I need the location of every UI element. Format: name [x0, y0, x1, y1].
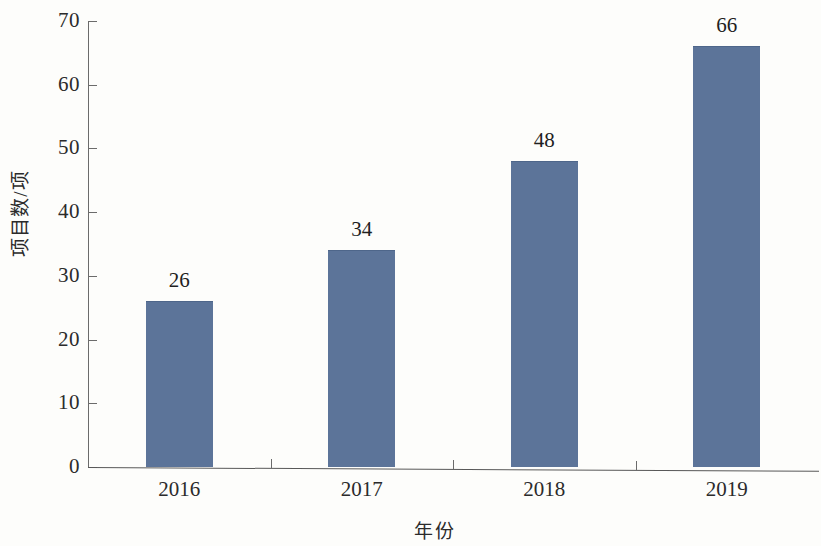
- bar-value-label: 48: [484, 130, 604, 151]
- x-axis-tick-label: 2016: [119, 478, 239, 501]
- bar: [511, 161, 578, 467]
- bar-chart: 010203040506070 2016201720182019 2634486…: [0, 0, 821, 546]
- x-axis-tick: [271, 459, 272, 468]
- plot-area: 010203040506070 2016201720182019 2634486…: [0, 0, 821, 546]
- x-axis-tick-label: 2019: [667, 478, 787, 501]
- bar-value-label: 26: [119, 270, 239, 291]
- y-axis-tick: [89, 340, 97, 341]
- bar-value-label: 66: [667, 15, 787, 36]
- y-axis-tick: [89, 21, 97, 22]
- y-axis-tick-label: 10: [28, 392, 80, 413]
- bar: [146, 301, 213, 467]
- bar: [693, 46, 760, 467]
- y-axis-tick: [89, 148, 97, 149]
- x-axis-tick: [636, 461, 637, 470]
- y-axis-tick-label: 30: [28, 265, 80, 286]
- y-axis-line: [88, 21, 89, 468]
- x-axis-tick: [453, 460, 454, 469]
- y-axis-tick: [89, 85, 97, 86]
- y-axis-tick-label: 60: [28, 74, 80, 95]
- x-axis-title: 年份: [375, 516, 495, 543]
- y-axis-tick-label: 20: [28, 329, 80, 350]
- y-axis-tick-label: 0: [28, 456, 80, 477]
- y-axis-tick: [89, 276, 97, 277]
- y-axis-tick-label: 50: [28, 137, 80, 158]
- y-axis-tick: [89, 212, 97, 213]
- y-axis-tick-label: 40: [28, 201, 80, 222]
- y-axis-title: 项目数/项: [5, 144, 32, 284]
- y-axis-tick: [89, 403, 97, 404]
- x-axis-tick-label: 2017: [302, 478, 422, 501]
- bar: [328, 250, 395, 467]
- y-axis-tick-label: 70: [28, 10, 80, 31]
- x-axis-tick-label: 2018: [484, 478, 604, 501]
- bar-value-label: 34: [302, 219, 422, 240]
